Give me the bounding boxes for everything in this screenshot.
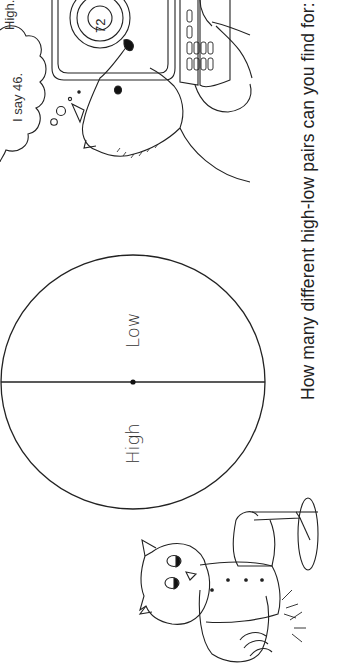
screen-target-number: 72 [93, 19, 108, 33]
dog-nose [124, 40, 133, 51]
dog-eye [115, 86, 122, 94]
owl-fan [298, 498, 318, 570]
question-text: How many different high-low pairs can yo… [298, 2, 319, 400]
owl-illustration [140, 498, 318, 662]
circle-label-high: High [122, 423, 143, 464]
circle-center-dot [130, 379, 135, 384]
thought-bubble-line2: I say 46. [10, 73, 25, 122]
high-low-circle [1, 255, 265, 509]
thought-bubble-line1: High. [2, 0, 17, 30]
circle-label-low: Low [122, 313, 143, 348]
worksheet-artwork [0, 0, 337, 667]
